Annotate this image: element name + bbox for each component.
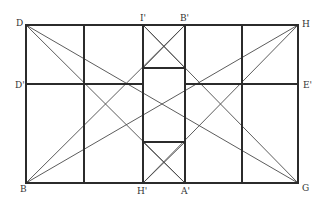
label-A-prime: A': [180, 186, 190, 196]
label-E-prime: E': [303, 80, 312, 90]
golden-rectangle-diagram: D H B G D' E' I' B' H' A': [0, 0, 326, 206]
label-H: H: [302, 19, 310, 29]
label-D-prime: D': [15, 80, 25, 90]
label-H-prime: H': [137, 186, 147, 196]
label-B-prime: B': [180, 13, 189, 23]
label-B: B: [20, 184, 27, 194]
diagonal-lines: [26, 25, 298, 183]
label-I-prime: I': [140, 13, 146, 23]
label-G: G: [302, 183, 309, 193]
label-D: D: [16, 18, 23, 28]
